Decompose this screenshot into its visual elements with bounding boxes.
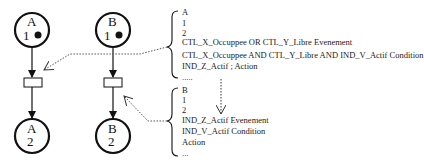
place-b1-name: B (108, 14, 117, 29)
place-a2: A 2 (15, 119, 49, 153)
place-b2: B 2 (96, 119, 130, 153)
annotation-b-line: 2 (182, 105, 186, 115)
place-a1-name: A (27, 14, 37, 29)
token-icon (116, 32, 123, 39)
annotation-b-line: 1 (182, 95, 186, 105)
token-icon (35, 32, 42, 39)
place-a1-index: 1 (23, 28, 30, 43)
brace-b (167, 88, 178, 156)
annotation-a-action: IND_Z_Actif ; Action (182, 61, 258, 71)
dotted-arrow-to-transition-a (44, 47, 167, 70)
annotation-b-event: IND_Z_Actif Evenement (182, 115, 269, 125)
place-b2-index: 2 (108, 134, 115, 149)
dotted-arrow-to-transition-b (124, 96, 167, 121)
annotation-b-ellipsis: ... (182, 148, 188, 158)
annotation-a-line: A (182, 7, 188, 17)
annotation-a-ellipsis: ..... (182, 72, 193, 82)
place-a1: A 1 (15, 13, 49, 47)
annotation-a-line: 1 (182, 18, 186, 28)
transition-b (104, 78, 122, 87)
place-a2-index: 2 (27, 134, 34, 149)
annotation-b-line: B (182, 85, 188, 95)
place-b1: B 1 (96, 13, 130, 47)
annotation-a-event: CTL_X_Occuppee OR CTL_Y_Libre Evenement (182, 37, 352, 47)
annotation-a-condition: CTL_X_Occuppee AND CTL_Y_Libre AND IND_V… (182, 50, 424, 60)
annotation-b-action: Action (182, 137, 205, 147)
brace-a (167, 11, 178, 78)
place-b1-index: 1 (104, 28, 111, 43)
annotation-b-condition: IND_V_Actif Condition (182, 126, 265, 136)
transition-a (24, 78, 42, 87)
